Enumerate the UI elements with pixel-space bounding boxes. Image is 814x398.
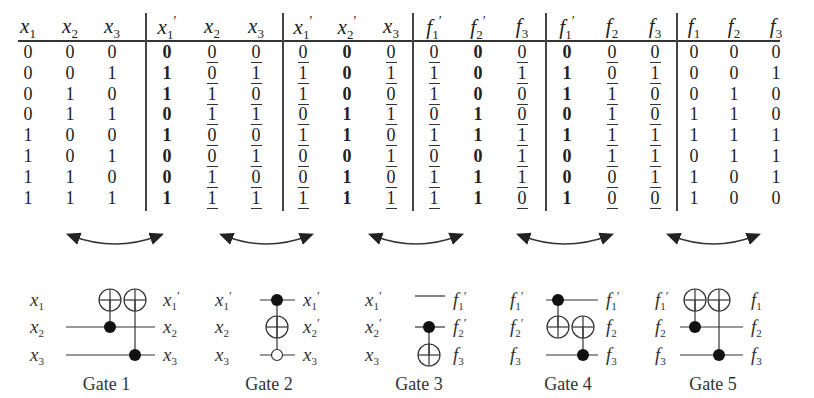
swap-arrow-icon xyxy=(672,236,755,244)
svg-text:x3: x3 xyxy=(364,344,379,367)
svg-text:f1: f1 xyxy=(751,289,762,312)
swap-arrow-icon xyxy=(72,236,158,244)
gate-2: x1′x2x3x1′x2′x3Gate 2 xyxy=(214,288,320,394)
svg-text:x3: x3 xyxy=(302,344,317,367)
svg-text:x2: x2 xyxy=(214,316,229,339)
svg-text:f3: f3 xyxy=(510,344,521,367)
gate-label: Gate 5 xyxy=(689,374,736,394)
gates-svg: x1x2x3x1′x2x3Gate 1x1′x2x3x1′x2′x3Gate 2… xyxy=(0,0,814,398)
swap-arrow-icon xyxy=(225,236,308,244)
svg-text:f1′: f1′ xyxy=(606,288,620,312)
svg-text:f3: f3 xyxy=(751,344,762,367)
svg-text:f2: f2 xyxy=(751,316,762,339)
svg-text:x3: x3 xyxy=(214,344,229,367)
svg-text:x1′: x1′ xyxy=(214,288,232,312)
svg-text:f2′: f2′ xyxy=(510,315,524,339)
svg-text:f3: f3 xyxy=(655,344,666,367)
svg-text:x3: x3 xyxy=(162,344,177,367)
gate-3: x1′x2′x3f1′f2′f3Gate 3 xyxy=(364,288,467,394)
svg-text:x1′: x1′ xyxy=(364,288,382,312)
svg-text:x2′: x2′ xyxy=(364,315,382,339)
gate-label: Gate 4 xyxy=(544,374,591,394)
svg-text:f1′: f1′ xyxy=(510,288,524,312)
svg-text:x2′: x2′ xyxy=(302,315,320,339)
svg-text:f2: f2 xyxy=(606,316,617,339)
gate-label: Gate 2 xyxy=(245,374,292,394)
svg-text:f3: f3 xyxy=(606,344,617,367)
svg-text:x1′: x1′ xyxy=(302,288,320,312)
swap-arrow-icon xyxy=(374,236,458,244)
svg-text:f1′: f1′ xyxy=(655,288,669,312)
svg-text:f1′: f1′ xyxy=(453,288,467,312)
svg-text:x1′: x1′ xyxy=(162,288,180,312)
svg-text:x3: x3 xyxy=(29,344,44,367)
svg-text:f3: f3 xyxy=(453,344,464,367)
svg-text:f2: f2 xyxy=(655,316,666,339)
swap-arrow-icon xyxy=(522,236,608,244)
gate-4: f1′f2′f3f1′f2f3Gate 4 xyxy=(510,288,620,394)
svg-text:x2: x2 xyxy=(29,316,44,339)
gate-label: Gate 3 xyxy=(395,374,442,394)
svg-text:x2: x2 xyxy=(162,316,177,339)
gate-5: f1′f2f3f1f2f3Gate 5 xyxy=(655,288,762,394)
gate-label: Gate 1 xyxy=(83,374,130,394)
svg-text:f2′: f2′ xyxy=(453,315,467,339)
svg-text:x1: x1 xyxy=(29,289,44,312)
gate-1: x1x2x3x1′x2x3Gate 1 xyxy=(29,288,180,394)
